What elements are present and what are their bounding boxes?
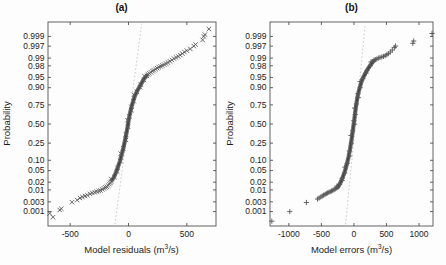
y-tick-label: 0.95	[250, 72, 267, 82]
y-tick-label: 0.003	[23, 197, 45, 207]
y-tick-label: 0.10	[28, 155, 45, 165]
y-tick-label: 0.05	[28, 165, 45, 175]
data-point	[200, 38, 204, 42]
y-tick-label: 0.75	[250, 100, 267, 110]
data-point	[203, 32, 207, 36]
y-tick-label: 0.50	[28, 119, 45, 129]
data-point	[410, 41, 415, 46]
y-tick-label: 0.50	[250, 119, 267, 129]
x-tick-label: 1000	[410, 229, 429, 239]
data-point	[287, 209, 292, 214]
data-point	[59, 207, 63, 211]
x-tick-label: 0	[126, 229, 131, 239]
y-tick-label: 0.90	[250, 82, 267, 92]
y-tick-label: 0.001	[245, 206, 267, 216]
axes-frame	[48, 22, 216, 226]
y-tick-label: 0.05	[250, 165, 267, 175]
y-tick-label: 0.003	[245, 197, 267, 207]
y-tick-label: 0.75	[28, 100, 45, 110]
plot-frame	[48, 22, 216, 226]
data-point	[193, 42, 197, 46]
x-tick-label: -1000	[278, 229, 300, 239]
x-tick-label: -500	[62, 229, 79, 239]
y-tick-label: 0.25	[28, 138, 45, 148]
x-tick-label: 500	[180, 229, 194, 239]
y-tick-label: 0.999	[245, 31, 267, 41]
x-tick-label: 0	[352, 229, 357, 239]
data-point	[411, 38, 416, 43]
data-point	[51, 215, 55, 219]
axes-frame	[270, 22, 433, 226]
y-tick-label: 0.90	[28, 82, 45, 92]
plot-canvas: -1000-500050010000.9990.9970.990.980.950…	[223, 0, 446, 265]
data-point	[75, 198, 79, 202]
x-tick-label: -500	[313, 229, 330, 239]
y-tick-label: 0.001	[23, 206, 45, 216]
chart-a: (a) Probability Model residuals (m3/s) -…	[0, 0, 223, 265]
data-point	[304, 200, 309, 205]
plot-frame	[270, 22, 433, 226]
y-tick-label: 0.95	[28, 72, 45, 82]
y-tick-label: 0.98	[28, 61, 45, 71]
plot-canvas: -50005000.9990.9970.990.980.950.900.750.…	[0, 0, 223, 265]
data-point	[429, 31, 434, 36]
chart-b: (b) Probability Model errors (m3/s) -100…	[223, 0, 446, 265]
y-tick-label: 0.98	[250, 61, 267, 71]
y-tick-label: 0.01	[250, 185, 267, 195]
figure-normal-probability-plots: (a) Probability Model residuals (m3/s) -…	[0, 0, 446, 265]
x-tick-label: 500	[379, 229, 393, 239]
y-tick-label: 0.997	[245, 41, 267, 51]
y-tick-label: 0.01	[28, 185, 45, 195]
data-point	[70, 200, 74, 204]
y-tick-label: 0.25	[250, 138, 267, 148]
y-tick-label: 0.10	[250, 155, 267, 165]
y-tick-label: 0.999	[23, 31, 45, 41]
y-tick-label: 0.997	[23, 41, 45, 51]
data-point	[207, 27, 211, 31]
tick-labels: -1000-500050010000.9990.9970.990.980.950…	[245, 31, 429, 239]
